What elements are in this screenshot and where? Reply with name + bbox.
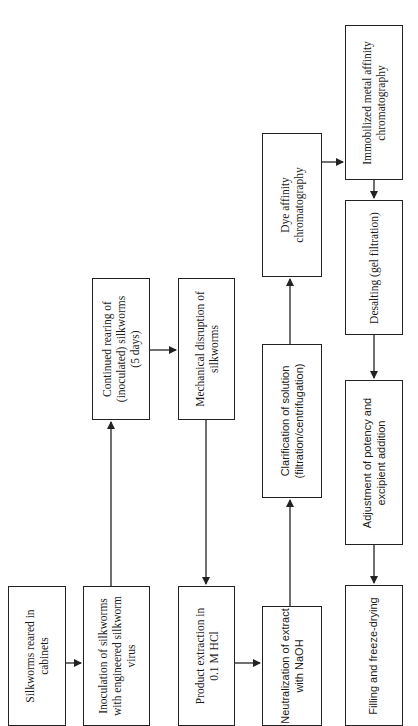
step-dye-affinity: Dye affinity chromatography — [262, 133, 322, 277]
step-label: Filling and freeze-drying — [367, 587, 381, 724]
step-mechanical-disruption: Mechanical disruption of silkworms — [178, 278, 235, 420]
step-adjustment-potency: Adjustment of potency and excipient addi… — [345, 380, 403, 545]
step-label: Silkworms reared in cabinets — [23, 588, 51, 724]
step-label: Dye affinity chromatography — [278, 135, 306, 275]
step-label: Immobilized metal affinity chromatograph… — [360, 27, 388, 179]
step-label: Desalting (gel filtration) — [367, 202, 381, 333]
step-label: Continued rearing of (inoculated) silkwo… — [100, 280, 142, 418]
step-label: Clarification of solution (filtration/ce… — [279, 346, 306, 496]
step-immobilized-metal-affinity: Immobilized metal affinity chromatograph… — [345, 25, 403, 180]
step-continued-rearing: Continued rearing of (inoculated) silkwo… — [92, 278, 150, 420]
step-clarification: Clarification of solution (filtration/ce… — [262, 344, 322, 498]
step-product-extraction: Product extraction in 0.1 M HCl — [178, 586, 235, 726]
step-filling-freeze-drying: Filling and freeze-drying — [345, 585, 403, 726]
step-silkworms-reared: Silkworms reared in cabinets — [8, 586, 66, 726]
step-desalting: Desalting (gel filtration) — [345, 200, 403, 335]
step-label: Neutralization of extract with NaOH — [279, 608, 306, 724]
step-inoculation: Inoculation of silkworms with engineered… — [83, 586, 150, 726]
step-label: Mechanical disruption of silkworms — [193, 280, 221, 418]
step-label: Inoculation of silkworms with engineered… — [96, 588, 138, 724]
step-neutralization: Neutralization of extract with NaOH — [262, 606, 322, 726]
step-label: Product extraction in 0.1 M HCl — [193, 588, 221, 724]
step-label: Adjustment of potency and excipient addi… — [361, 382, 388, 543]
